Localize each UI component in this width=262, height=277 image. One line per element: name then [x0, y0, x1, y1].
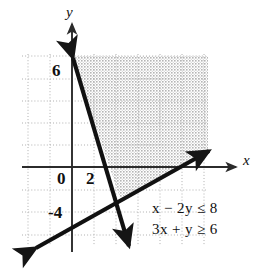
inequality-label-1: x − 2y ≤ 8 — [152, 200, 218, 217]
x-tick-label-2: 2 — [86, 169, 95, 189]
y-axis-label: y — [66, 4, 73, 21]
graph-figure: y x 6 0 2 -4 x − 2y ≤ 8 3x + y ≥ 6 — [0, 0, 262, 277]
y-tick-label-minus-4: -4 — [48, 203, 62, 223]
inequality-label-2: 3x + y ≥ 6 — [152, 221, 218, 238]
x-axis-label: x — [243, 152, 250, 169]
coordinate-plane — [0, 0, 262, 277]
origin-label: 0 — [57, 169, 66, 189]
y-tick-label-6: 6 — [52, 61, 61, 81]
